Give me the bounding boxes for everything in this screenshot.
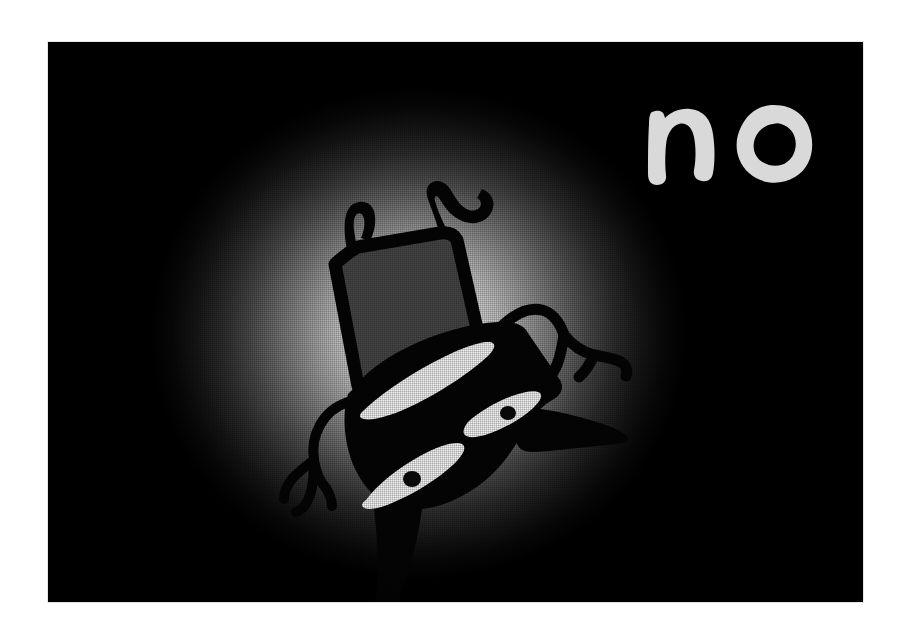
no-lettering-glyphs	[640, 88, 830, 198]
art-panel	[48, 42, 863, 602]
letter-o-glyph	[737, 105, 813, 183]
artwork-page	[0, 0, 915, 627]
letter-n-glyph	[648, 109, 715, 185]
no-lettering	[640, 88, 830, 198]
